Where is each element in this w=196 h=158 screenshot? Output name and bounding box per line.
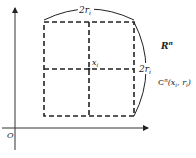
space-label: Rn [160, 39, 173, 51]
cube-diagram: 2ri 2ri xi Rn Cn(xi, ri) O [0, 0, 196, 158]
center-label: xi [92, 58, 99, 68]
cube-label: Cn(xi, ri) [158, 77, 191, 88]
origin-label: O [7, 131, 14, 140]
center-point [88, 68, 91, 71]
